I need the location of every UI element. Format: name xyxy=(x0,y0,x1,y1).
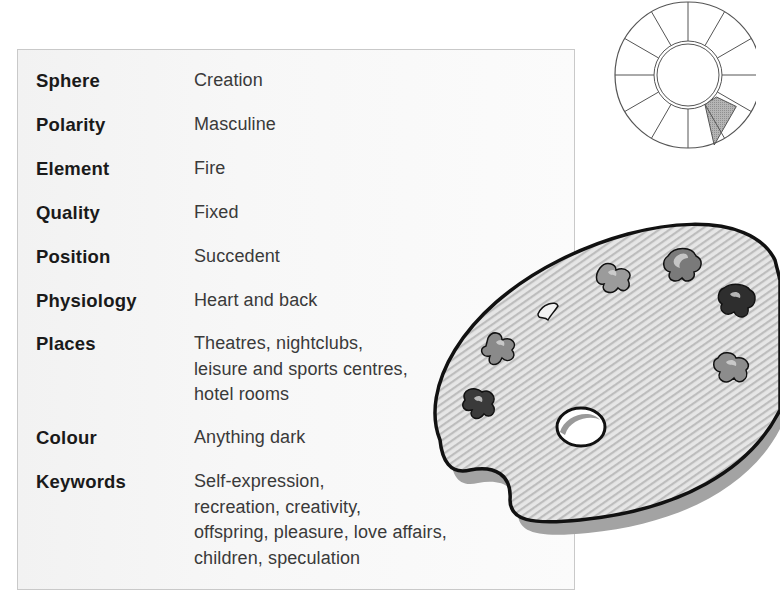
value-line: Fixed xyxy=(194,200,239,226)
value-line: offspring, pleasure, love affairs, xyxy=(194,520,447,546)
value-line: Succedent xyxy=(194,244,280,270)
property-label: Sphere xyxy=(36,70,100,92)
property-value: Creation xyxy=(194,68,263,94)
artist-palette-icon xyxy=(420,220,780,540)
value-line: recreation, creativity, xyxy=(194,495,447,521)
property-label: Physiology xyxy=(36,290,137,312)
property-label: Quality xyxy=(36,202,100,224)
value-line: leisure and sports centres, xyxy=(194,357,408,383)
property-label: Position xyxy=(36,246,111,268)
property-value: Succedent xyxy=(194,244,280,270)
property-label: Polarity xyxy=(36,114,105,136)
value-line: Anything dark xyxy=(194,425,305,451)
highlighted-house-segment xyxy=(705,97,736,145)
value-line: Theatres, nightclubs, xyxy=(194,331,408,357)
property-value: Self-expression, recreation, creativity,… xyxy=(194,469,447,571)
property-value: Masculine xyxy=(194,112,276,138)
property-value: Anything dark xyxy=(194,425,305,451)
value-line: Self-expression, xyxy=(194,469,447,495)
property-label: Element xyxy=(36,158,109,180)
property-value: Theatres, nightclubs, leisure and sports… xyxy=(194,331,408,408)
property-value: Heart and back xyxy=(194,288,317,314)
value-line: Creation xyxy=(194,68,263,94)
house-wheel-icon xyxy=(606,0,756,154)
value-line: children, speculation xyxy=(194,546,447,572)
value-line: hotel rooms xyxy=(194,382,408,408)
value-line: Masculine xyxy=(194,112,276,138)
property-value: Fire xyxy=(194,156,225,182)
property-label: Places xyxy=(36,333,96,355)
value-line: Fire xyxy=(194,156,225,182)
property-label: Keywords xyxy=(36,471,126,493)
property-value: Fixed xyxy=(194,200,239,226)
property-label: Colour xyxy=(36,427,97,449)
value-line: Heart and back xyxy=(194,288,317,314)
